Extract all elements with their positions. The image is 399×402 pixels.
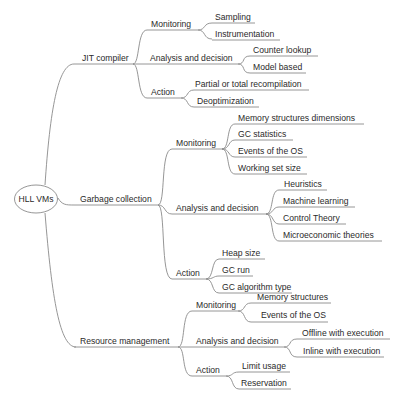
link <box>206 276 219 279</box>
link <box>178 347 192 376</box>
jit-analysis-and-decision[interactable]: Analysis and decision <box>147 53 238 64</box>
leaf-memory-structures-dimensions[interactable]: Memory structures dimensions <box>235 113 364 124</box>
leaf-label: Control Theory <box>283 213 340 223</box>
link <box>133 64 147 98</box>
leaf-label: Events of the OS <box>261 310 326 320</box>
leaf-label: Events of the OS <box>238 146 303 156</box>
leaf-gc-run[interactable]: GC run <box>219 265 253 276</box>
leaf-label: GC algorithm type <box>222 282 291 292</box>
leaf-events-of-the-os[interactable]: Events of the OS <box>235 146 307 157</box>
link <box>284 347 297 357</box>
leaf-label: Memory structures <box>257 292 328 302</box>
leaf-label: Deoptimization <box>197 96 254 106</box>
link <box>181 90 194 98</box>
node-label: Monitoring <box>176 138 216 148</box>
leaf-memory-structures[interactable]: Memory structures <box>251 292 331 303</box>
gc-monitoring[interactable]: Monitoring <box>172 138 222 149</box>
gc-analysis-and-decision[interactable]: Analysis and decision <box>172 203 266 214</box>
node-label: Action <box>151 87 175 97</box>
node-label: Analysis and decision <box>176 203 259 213</box>
leaf-label: Memory structures dimensions <box>238 113 355 123</box>
leaf-counter-lookup[interactable]: Counter lookup <box>250 45 318 56</box>
leaf-model-based[interactable]: Model based <box>250 62 306 73</box>
leaf-label: Heap size <box>222 248 260 258</box>
leaf-label: Microeconomic theories <box>283 230 374 240</box>
branch-garbage-collection[interactable]: Garbage collection <box>74 194 158 205</box>
root-label: HLL VMs <box>18 194 53 204</box>
link-root-jit <box>45 64 74 185</box>
link <box>198 23 212 30</box>
leaf-deoptimization[interactable]: Deoptimization <box>194 96 259 107</box>
leaf-control-theory[interactable]: Control Theory <box>279 213 346 224</box>
leaf-label: Machine learning <box>283 196 349 206</box>
mind-map: HLL VMs JIT compiler Monitoring Sampling… <box>0 0 399 402</box>
rm-action[interactable]: Action <box>192 365 226 376</box>
branch-resource-management[interactable]: Resource management <box>74 336 178 347</box>
link <box>266 214 279 224</box>
leaf-reservation[interactable]: Reservation <box>239 378 291 389</box>
jit-action[interactable]: Action <box>147 87 181 98</box>
link <box>238 64 250 73</box>
link <box>226 372 239 376</box>
branch-label: JIT compiler <box>82 53 129 63</box>
link <box>198 30 212 39</box>
link <box>226 376 239 389</box>
node-label: Action <box>196 365 220 375</box>
link <box>238 303 251 311</box>
link <box>222 140 235 149</box>
branch-label: Garbage collection <box>80 194 152 204</box>
leaf-label: Limit usage <box>242 361 286 371</box>
leaf-machine-learning[interactable]: Machine learning <box>279 196 355 207</box>
link <box>181 98 194 107</box>
link <box>206 279 219 293</box>
link <box>158 205 172 279</box>
link-root-gc <box>58 198 74 205</box>
leaf-events-of-the-os-rm[interactable]: Events of the OS <box>251 310 328 322</box>
leaf-label: Partial or total recompilation <box>195 79 302 89</box>
leaf-label: Working set size <box>238 163 301 173</box>
leaf-label: Inline with execution <box>303 346 381 356</box>
node-label: Analysis and decision <box>150 53 233 63</box>
leaf-heuristics[interactable]: Heuristics <box>279 179 327 190</box>
node-label: Monitoring <box>151 19 191 29</box>
node-label: Monitoring <box>196 300 236 310</box>
leaf-heap-size[interactable]: Heap size <box>219 248 265 259</box>
leaf-sampling[interactable]: Sampling <box>212 12 255 23</box>
link <box>238 311 251 322</box>
link <box>284 339 297 347</box>
leaf-instrumentation[interactable]: Instrumentation <box>212 29 280 40</box>
node-label: Action <box>176 268 200 278</box>
link <box>238 56 250 64</box>
jit-monitoring[interactable]: Monitoring <box>147 19 198 30</box>
leaf-partial-or-total-recompilation[interactable]: Partial or total recompilation <box>194 79 309 90</box>
link <box>133 30 147 64</box>
leaf-label: GC statistics <box>238 129 286 139</box>
node-label: Analysis and decision <box>196 336 279 346</box>
leaf-limit-usage[interactable]: Limit usage <box>239 361 290 372</box>
leaf-offline-with-execution[interactable]: Offline with execution <box>297 328 390 339</box>
branch-label: Resource management <box>80 336 170 346</box>
root-node[interactable]: HLL VMs <box>15 185 58 213</box>
link <box>178 311 192 347</box>
gc-action[interactable]: Action <box>172 268 206 279</box>
leaf-label: Heuristics <box>284 179 322 189</box>
branch-jit-compiler[interactable]: JIT compiler <box>74 53 133 64</box>
leaf-working-set-size[interactable]: Working set size <box>235 163 307 174</box>
rm-analysis-and-decision[interactable]: Analysis and decision <box>192 336 284 347</box>
leaf-label: Counter lookup <box>253 45 312 55</box>
leaf-label: Reservation <box>241 378 287 388</box>
leaf-label: GC run <box>222 265 250 275</box>
link-root-rm <box>45 213 76 347</box>
leaf-inline-with-execution[interactable]: Inline with execution <box>297 346 384 357</box>
leaf-label: Offline with execution <box>302 328 384 338</box>
link <box>158 149 172 205</box>
leaf-label: Instrumentation <box>215 29 274 39</box>
leaf-gc-statistics[interactable]: GC statistics <box>235 129 293 140</box>
leaf-label: Model based <box>253 62 302 72</box>
leaf-microeconomic-theories[interactable]: Microeconomic theories <box>279 230 382 241</box>
leaf-label: Sampling <box>215 12 251 22</box>
rm-monitoring[interactable]: Monitoring <box>192 300 238 311</box>
